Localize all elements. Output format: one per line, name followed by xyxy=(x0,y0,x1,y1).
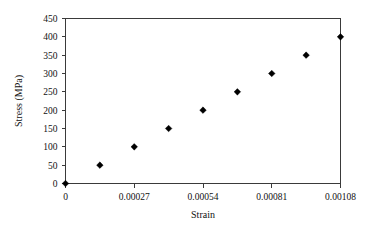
x-axis-title: Strain xyxy=(191,209,215,220)
y-tick-label: 300 xyxy=(43,69,58,79)
y-tick-label: 400 xyxy=(43,32,58,42)
y-tick-label: 50 xyxy=(48,161,58,171)
y-tick-label: 100 xyxy=(43,142,58,152)
x-tick-label: 0 xyxy=(63,192,68,202)
y-tick-label: 350 xyxy=(43,51,58,61)
x-tick-label: 0.00108 xyxy=(325,192,356,202)
y-tick-label: 250 xyxy=(43,87,58,97)
x-tick-label: 0.00054 xyxy=(188,192,219,202)
x-tick-label: 0.00027 xyxy=(119,192,150,202)
y-tick-label: 450 xyxy=(43,14,58,24)
y-tick-label: 150 xyxy=(43,124,58,134)
plot-area: 050100150200250300350400450 00.000270.00… xyxy=(0,0,372,231)
stress-strain-chart: 050100150200250300350400450 00.000270.00… xyxy=(0,0,372,231)
y-axis-title: Stress (MPa) xyxy=(13,75,25,127)
y-tick-label: 200 xyxy=(43,106,58,116)
y-tick-label: 0 xyxy=(53,179,58,189)
x-tick-label: 0.00081 xyxy=(256,192,287,202)
